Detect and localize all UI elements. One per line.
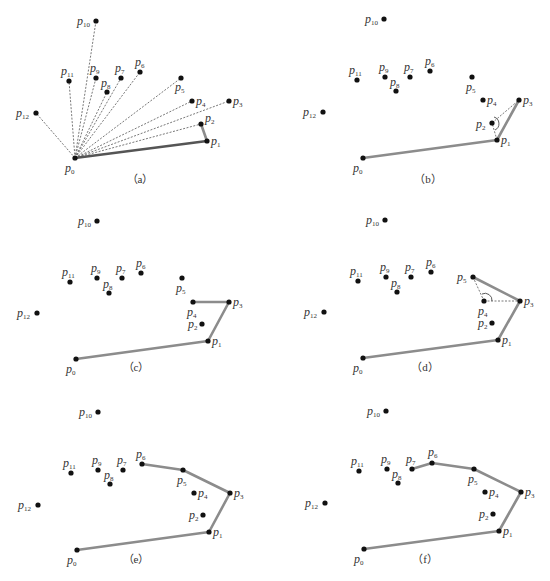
label-p6: p6	[135, 447, 146, 462]
label-p0: p0	[352, 161, 363, 176]
label-p6: p6	[425, 255, 436, 270]
point-p11	[355, 278, 360, 283]
label-p8: p8	[391, 467, 402, 482]
point-p12	[320, 109, 325, 114]
label-p1: p1	[501, 333, 512, 348]
label-p12: p12	[15, 106, 30, 121]
point-p11	[356, 468, 361, 473]
point-p3	[518, 489, 523, 494]
dashed-ray	[75, 78, 121, 158]
label-p0: p0	[64, 161, 75, 176]
point-p3	[517, 298, 522, 303]
label-p4: p4	[195, 94, 206, 109]
point-p9	[382, 74, 387, 79]
label-p8: p8	[389, 75, 400, 90]
label-p1: p1	[212, 525, 223, 540]
point-p2	[489, 120, 494, 125]
label-p7: p7	[403, 60, 414, 75]
label-p11: p11	[348, 63, 362, 78]
hull-path	[363, 100, 519, 158]
point-p3	[516, 97, 521, 102]
label-p10: p10	[366, 404, 381, 419]
dashed-ray	[75, 78, 96, 158]
label-p9: p9	[89, 61, 100, 76]
point-p5	[179, 275, 184, 280]
angle-arc	[494, 117, 499, 130]
label-p12: p12	[303, 305, 318, 320]
label-p11: p11	[61, 265, 75, 280]
panel-caption: （a）	[127, 173, 154, 185]
dashed-ray	[69, 81, 75, 158]
label-p2: p2	[478, 507, 489, 522]
point-p7	[409, 466, 414, 471]
label-p8: p8	[103, 468, 114, 483]
panel-a: p0p1p2p3p4p5p6p7p8p9p10p11p12（a）	[15, 14, 243, 185]
label-p4: p4	[197, 486, 208, 501]
point-p11	[354, 77, 359, 82]
label-p9: p9	[91, 453, 102, 468]
label-p9: p9	[90, 261, 101, 276]
point-p7	[407, 74, 412, 79]
label-p8: p8	[390, 276, 401, 291]
label-p3: p3	[523, 294, 534, 309]
point-p2	[199, 321, 204, 326]
label-p7: p7	[404, 260, 415, 275]
point-p1	[205, 338, 210, 343]
label-p5: p5	[176, 473, 187, 488]
point-p9	[95, 467, 100, 472]
panel-c: p0p1p2p3p4p5p6p7p8p9p10p11p12（c）	[16, 214, 243, 377]
panel-e: p0p1p2p3p4p5p6p7p8p9p10p11p12（e）	[17, 405, 244, 568]
label-p7: p7	[114, 61, 125, 76]
label-p5: p5	[465, 80, 476, 95]
point-p1	[495, 337, 500, 342]
point-p0	[73, 356, 78, 361]
point-p6	[429, 460, 434, 465]
point-p4	[189, 98, 194, 103]
label-p3: p3	[522, 93, 533, 108]
panel-d: p0p1p2p3p4p5p6p7p8p9p10p11p12（d）	[303, 213, 534, 376]
point-p5	[471, 466, 476, 471]
point-p11	[68, 470, 73, 475]
point-p5	[180, 467, 185, 472]
point-p11	[66, 78, 71, 83]
hull-edge	[201, 124, 207, 141]
label-p5: p5	[456, 270, 467, 285]
point-p4	[481, 298, 486, 303]
label-p12: p12	[304, 496, 319, 511]
label-p10: p10	[78, 405, 93, 420]
point-p10	[95, 409, 100, 414]
label-p6: p6	[135, 256, 146, 271]
hull-path	[364, 463, 521, 549]
point-p7	[120, 467, 125, 472]
label-p4: p4	[477, 304, 488, 319]
hull-path	[77, 464, 230, 550]
label-p5: p5	[174, 80, 185, 95]
label-p2: p2	[188, 508, 199, 523]
label-p5: p5	[175, 281, 186, 296]
point-p4	[480, 97, 485, 102]
panel-caption: （c）	[123, 361, 150, 373]
label-p0: p0	[66, 553, 77, 568]
point-p10	[94, 218, 99, 223]
point-p1	[494, 137, 499, 142]
point-p6	[139, 461, 144, 466]
point-p3	[226, 98, 231, 103]
label-p7: p7	[405, 452, 416, 467]
label-p9: p9	[380, 452, 391, 467]
label-p2: p2	[475, 117, 486, 132]
point-p12	[322, 500, 327, 505]
label-p11: p11	[349, 264, 363, 279]
label-p1: p1	[210, 134, 221, 149]
point-p0	[72, 155, 77, 160]
label-p10: p10	[364, 12, 379, 27]
panel-b: p0p1p2p3p4p5p6p7p8p9p10p11p12（b）	[302, 12, 533, 185]
label-p0: p0	[352, 361, 363, 376]
point-p5	[469, 74, 474, 79]
point-p11	[67, 279, 72, 284]
label-p6: p6	[427, 445, 438, 460]
point-p7	[408, 274, 413, 279]
point-p0	[360, 155, 365, 160]
label-p0: p0	[353, 552, 364, 567]
label-p3: p3	[232, 295, 243, 310]
point-p6	[137, 69, 142, 74]
